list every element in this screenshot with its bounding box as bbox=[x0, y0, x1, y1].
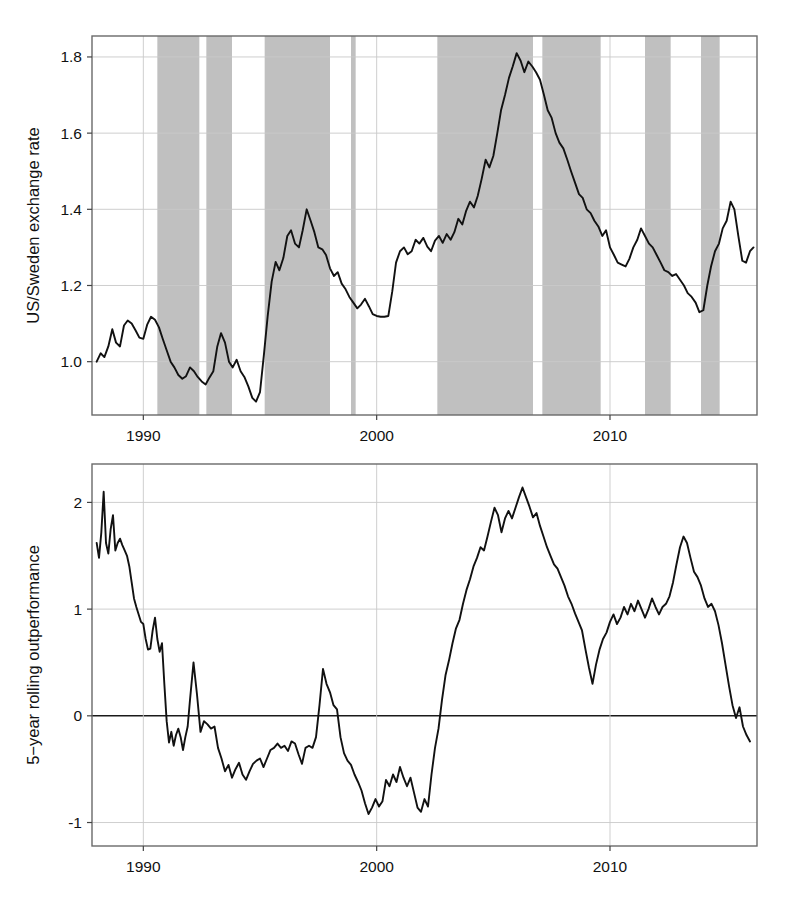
shaded-band bbox=[351, 36, 356, 415]
x-tick-label: 2010 bbox=[593, 858, 628, 875]
y-tick-label: 1.6 bbox=[60, 125, 82, 142]
exchange-rate-chart: 1.01.21.41.61.8199020002010US/Sweden exc… bbox=[0, 0, 796, 452]
y-tick-label: -1 bbox=[68, 814, 82, 831]
y-tick-label: 1.4 bbox=[60, 201, 82, 218]
y-tick-label: 2 bbox=[73, 494, 82, 511]
y-tick-label: 1 bbox=[73, 601, 82, 618]
y-tick-label: 1.0 bbox=[60, 353, 82, 370]
figure-root: 1.01.21.41.61.8199020002010US/Sweden exc… bbox=[0, 0, 796, 905]
y-tick-label: 1.8 bbox=[60, 48, 82, 65]
shaded-band bbox=[701, 36, 720, 415]
shaded-band bbox=[265, 36, 330, 415]
plot-box bbox=[92, 464, 757, 846]
y-tick-label: 1.2 bbox=[60, 277, 82, 294]
y-axis-label: US/Sweden exchange rate bbox=[24, 127, 42, 323]
shaded-band bbox=[645, 36, 671, 415]
series-line bbox=[97, 487, 750, 814]
shaded-band bbox=[542, 36, 600, 415]
shaded-band bbox=[437, 36, 533, 415]
y-axis-label: 5−year rolling outperformance bbox=[24, 545, 42, 765]
rolling-outperformance-chart: -10121990200020105−year rolling outperfo… bbox=[0, 436, 796, 888]
y-tick-label: 0 bbox=[73, 707, 82, 724]
x-tick-label: 2000 bbox=[359, 858, 394, 875]
shaded-band bbox=[157, 36, 199, 415]
x-tick-label: 1990 bbox=[126, 858, 161, 875]
